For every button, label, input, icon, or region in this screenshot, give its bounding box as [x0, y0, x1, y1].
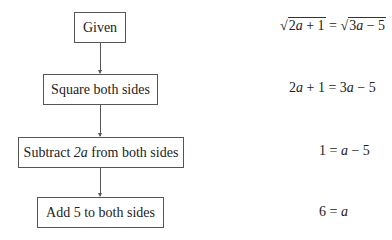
- arrow-2: [100, 105, 101, 136]
- equation-subtracted: 1 = a − 5: [319, 143, 370, 159]
- equation-added: 6 = a: [319, 204, 348, 220]
- step-subtract-box: Subtract 2a from both sides: [18, 137, 184, 168]
- equation-squared: 2a + 1 = 3a − 5: [289, 80, 376, 96]
- step-subtract-label: Subtract 2a from both sides: [24, 145, 179, 161]
- equation-given: √2a + 1 = √3a − 5: [280, 18, 386, 34]
- step-given-label: Given: [83, 20, 117, 36]
- step-square-label: Square both sides: [51, 82, 150, 98]
- step-given-box: Given: [74, 12, 126, 43]
- step-add-label: Add 5 to both sides: [46, 205, 155, 221]
- step-square-box: Square both sides: [43, 74, 158, 105]
- sqrt-left: √2a + 1: [280, 18, 326, 34]
- step-add-box: Add 5 to both sides: [37, 197, 164, 228]
- sqrt-right: √3a − 5: [341, 18, 387, 34]
- arrow-1: [100, 43, 101, 73]
- arrow-3: [100, 168, 101, 196]
